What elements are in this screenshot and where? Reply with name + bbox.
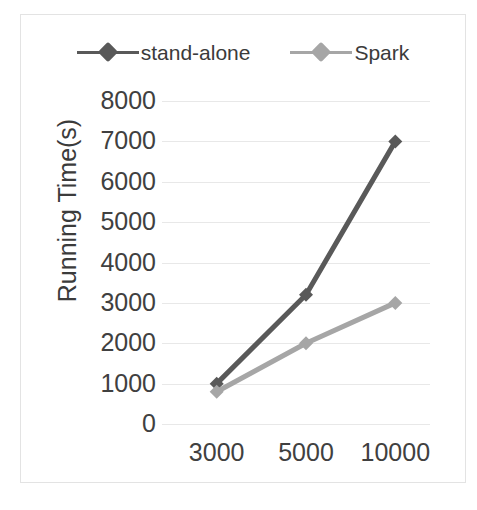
legend-diamond-shape (311, 42, 331, 62)
y-axis-tick-label: 8000 (70, 88, 156, 113)
y-axis-tick-label: 1000 (70, 371, 156, 396)
y-axis-tick-label: 0 (70, 411, 156, 436)
legend-entry-spark: Spark (290, 42, 409, 63)
y-axis-tick-label: 3000 (70, 290, 156, 315)
legend-label-spark: Spark (354, 42, 409, 63)
y-axis-tick-label: 2000 (70, 330, 156, 355)
legend-label-stand-alone: stand-alone (141, 42, 251, 63)
y-axis-tick-label: 4000 (70, 250, 156, 275)
series-lines (162, 101, 430, 424)
y-axis-tick-label: 6000 (70, 169, 156, 194)
plot-area (162, 101, 430, 424)
y-axis-tick-label: 5000 (70, 209, 156, 234)
chart-container: stand-alone Spark Running Time(s) 800070… (0, 0, 477, 510)
y-axis-tick-labels: 800070006000500040003000200010000 (66, 0, 156, 510)
y-axis-tick-label: 7000 (70, 128, 156, 153)
gridline (162, 424, 430, 425)
legend-marker-diamond-icon (290, 43, 352, 61)
x-axis-tick-labels: 3000500010000 (162, 440, 430, 474)
x-axis-tick-label: 10000 (340, 440, 450, 465)
